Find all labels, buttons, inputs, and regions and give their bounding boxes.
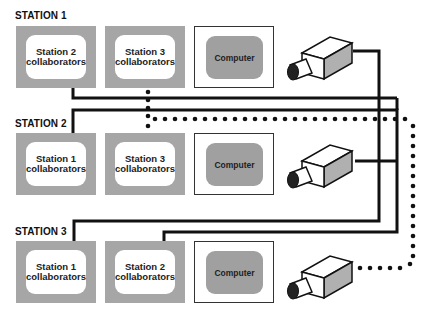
camera-icon (286, 252, 356, 302)
wire-cam3-dotted (146, 90, 416, 271)
wiring-diagram (0, 0, 433, 319)
camera-icon (286, 141, 356, 191)
camera-icon (286, 33, 356, 83)
wire-s1-station2 (73, 88, 379, 98)
